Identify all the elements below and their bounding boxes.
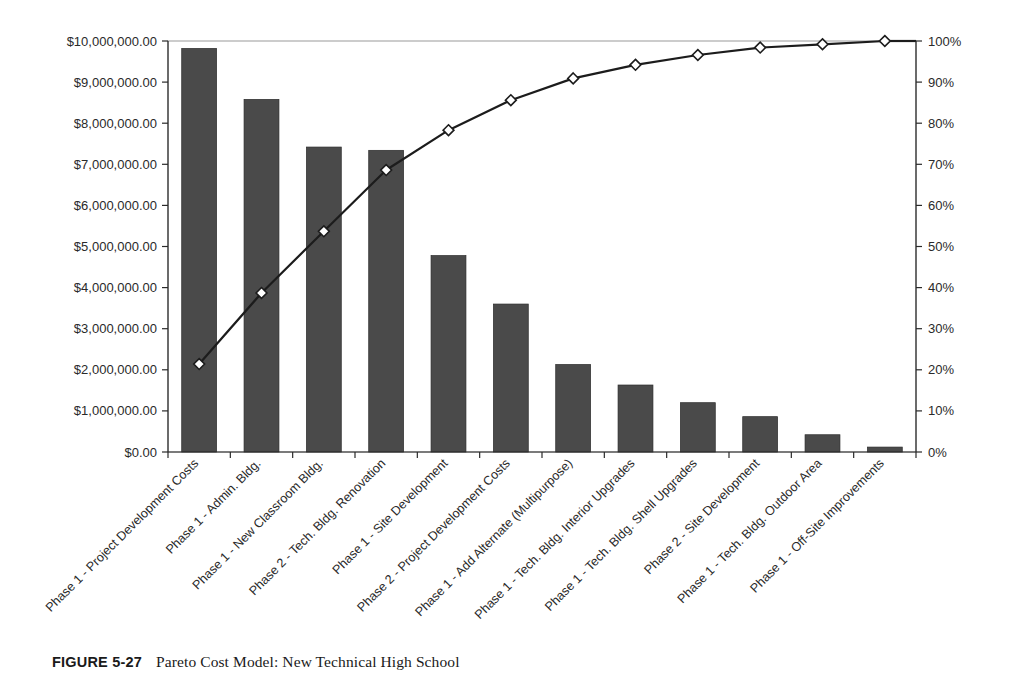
x-axis-category-labels: Phase 1 - Project Development CostsPhase… [43,456,887,622]
bar [244,99,279,452]
y-axis-tick-label: $6,000,000.00 [74,198,157,213]
cumulative-point-marker [568,73,579,84]
x-axis-category-label: Phase 1 - Off-Site Improvements [748,456,887,595]
bar [306,147,341,452]
cumulative-point-marker [692,50,703,61]
y-axis-tick-label: $8,000,000.00 [74,116,157,131]
y-axis-tick-label: $0.00 [124,445,157,460]
bar [743,417,778,452]
x-axis-category-label: Phase 2 - Tech. Bldg. Renovation [246,456,388,598]
plot-area-border [168,41,916,452]
bar [867,447,902,452]
y2-axis-tick-label: 90% [928,75,954,90]
cumulative-point-marker [443,125,454,136]
y-axis-tick-label: $1,000,000.00 [74,403,157,418]
bar [680,403,715,452]
chart-svg: $0.00$1,000,000.00$2,000,000.00$3,000,00… [0,0,1013,650]
y2-axis-tick-label: 0% [928,445,947,460]
figure-caption: FIGURE 5-27Pareto Cost Model: New Techni… [52,652,992,672]
x-axis-category-label: Phase 2 - Site Development [642,456,763,577]
y2-axis-tick-label: 80% [928,116,954,131]
bar [556,364,591,452]
x-axis-category-label: Phase 1 - New Classroom Bldg. [190,456,326,592]
bar [805,435,840,452]
y2-axis-tick-label: 100% [928,34,962,49]
y2-axis-tick-label: 20% [928,362,954,377]
figure-number: FIGURE 5-27 [52,654,142,670]
x-axis-category-label: Phase 1 - Site Development [330,456,451,577]
cumulative-point-marker [879,36,890,47]
y2-axis-tick-label: 30% [928,321,954,336]
y2-axis-tick-label: 40% [928,280,954,295]
y-axis-tick-label: $10,000,000.00 [67,34,157,49]
figure-container: $0.00$1,000,000.00$2,000,000.00$3,000,00… [0,0,1013,676]
bar [182,48,217,452]
bar-series [182,48,903,452]
y2-axis-tick-label: 60% [928,198,954,213]
bar [493,304,528,452]
bar [369,150,404,452]
y-axis-tick-label: $2,000,000.00 [74,362,157,377]
cumulative-point-marker [755,42,766,53]
y-axis-right: 0%10%20%30%40%50%60%70%80%90%100% [916,34,962,460]
figure-caption-text: Pareto Cost Model: New Technical High Sc… [156,653,460,670]
y-axis-tick-label: $5,000,000.00 [74,239,157,254]
cumulative-line-markers [194,36,890,370]
y-axis-tick-label: $7,000,000.00 [74,157,157,172]
y2-axis-tick-label: 70% [928,157,954,172]
cumulative-line [199,41,885,364]
bar [431,256,466,452]
y2-axis-tick-label: 50% [928,239,954,254]
y-axis-tick-label: $3,000,000.00 [74,321,157,336]
y-axis-tick-label: $4,000,000.00 [74,280,157,295]
x-axis [168,452,916,458]
pareto-chart: $0.00$1,000,000.00$2,000,000.00$3,000,00… [0,0,1013,650]
y-axis-tick-label: $9,000,000.00 [74,75,157,90]
cumulative-point-marker [505,95,516,106]
bar [618,385,653,452]
cumulative-point-marker [630,59,641,70]
y2-axis-tick-label: 10% [928,403,954,418]
y-axis-left: $0.00$1,000,000.00$2,000,000.00$3,000,00… [67,34,168,460]
